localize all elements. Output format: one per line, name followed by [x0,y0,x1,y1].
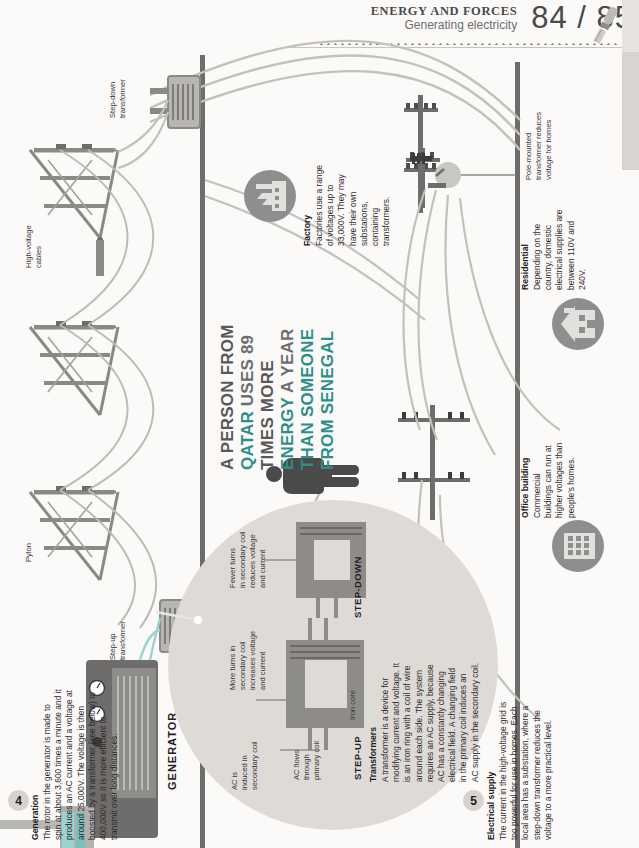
ann-fewer-turns-l2: in secondary coil [238,531,248,588]
factory-icon [244,170,296,222]
transformers-title: Transformers [368,664,379,782]
factory-body: Factories use a range of voltages up to … [314,161,392,246]
label-pole-mounted-transformer: Pole-mounted transformer reduces voltage… [524,112,554,180]
ann-fewer-turns-l3: reduces voltage [248,531,258,588]
step-down-diagram [264,522,366,618]
ann-ac-flows: AC flows through primary coil [292,741,322,780]
quote-line-4b: A YEAR [278,329,297,394]
quote-line-4a: ENERGY [278,397,297,470]
ann-ac-flows-l3: primary coil [312,741,322,780]
label-step-down-l1: Step-down [108,79,118,118]
label-step-down-l2: transformer [118,79,128,118]
residential-callout-title-wrap: Residential [520,244,531,290]
ann-more-turns: More turns in secondary coil increases v… [228,631,268,690]
ann-ac-flows-l2: through [302,741,312,780]
office-callout-body-wrap: Commercial buildings can run at higher v… [532,438,577,518]
generation-body: The rotor in the generator is made to sp… [42,688,120,840]
step-up-label: STEP-UP [352,736,363,780]
transformers-text-block: Transformers [368,664,379,782]
label-step-up-l2: transformer [118,621,128,660]
label-hv-l2: cables [34,225,44,268]
transformers-body: A transformer is a device for modifying … [380,662,481,782]
ann-fewer-turns-l1: Fewer turns [228,531,238,588]
generation-body-wrap: The rotor in the generator is made to sp… [42,688,120,840]
label-hv-l1: High-voltage [24,225,34,268]
label-pylon-text: Pylon [24,543,34,562]
ann-more-turns-l3: increases voltage [248,631,258,690]
office-callout-title-wrap: Office building [520,458,531,518]
factory-callout-title-wrap: Factory [302,215,313,246]
ann-more-turns-l4: and current [258,631,268,690]
label-pm-l3: voltage for homes [544,112,554,180]
ann-ac-induced-l1: AC is [230,741,240,790]
label-high-voltage-cables: High-voltage cables [24,225,44,268]
ann-ac-flows-l1: AC flows [292,741,302,780]
quote-line-6: FROM SENEGAL [318,331,337,470]
office-title: Office building [520,458,531,518]
residential-body: Depending on the country, domestic elect… [532,202,588,290]
label-pylon: Pylon [24,543,34,562]
label-pm-l2: transformer reduces [534,112,544,180]
step-up-diagram [256,618,364,750]
step-down-label: STEP-DOWN [352,556,363,618]
ann-fewer-turns: Fewer turns in secondary coil reduces vo… [228,531,268,588]
quote-line-2b: USES 89 [238,335,257,406]
step-badge-4: 4 [8,790,29,811]
label-step-down-transformer: Step-down transformer [108,79,128,118]
label-step-up-transformer: Step-up transformer [108,621,128,660]
ann-ac-induced-l3: secondary coil [250,741,260,790]
cable-bundle-left [60,150,156,628]
page-root: ENERGY AND FORCES Generating electricity… [0,0,639,848]
ann-iron-core-text: Iron core [348,690,358,720]
ann-more-turns-l1: More turns in [228,631,238,690]
ann-ac-induced-l2: induced in [240,741,250,790]
factory-callout-body-wrap: Factories use a range of voltages up to … [314,161,392,246]
office-body: Commercial buildings can run at higher v… [532,438,577,518]
quote-line-5: THAN SOMEONE [298,329,317,470]
label-step-up-l1: Step-up [108,621,118,660]
label-step-down: STEP-DOWN [352,556,363,618]
ann-ac-induced: AC is induced in secondary coil [230,741,260,790]
quote-line-2a: QATAR [238,411,257,470]
residential-icon [552,298,604,350]
generation-block: Generation [30,690,41,840]
residential-callout-body-wrap: Depending on the country, domestic elect… [532,202,588,290]
residential-title: Residential [520,244,531,290]
office-building-icon [552,520,604,572]
factory-title: Factory [302,215,313,246]
quote-line-1: A PERSON FROM [218,324,237,470]
ann-more-turns-l2: secondary coil [238,631,248,690]
generation-title: Generation [30,690,41,840]
label-pm-l1: Pole-mounted [524,112,534,180]
label-step-up: STEP-UP [352,736,363,780]
pull-quote: A PERSON FROM QATAR USES 89 TIMES MORE E… [218,255,338,470]
transformers-body-wrap: A transformer is a device for modifying … [380,662,481,782]
ann-iron-core: Iron core [348,690,358,720]
ann-fewer-turns-l4: and current [258,531,268,588]
cable-bundle-top [150,41,520,150]
quote-line-3: TIMES MORE [258,360,277,470]
